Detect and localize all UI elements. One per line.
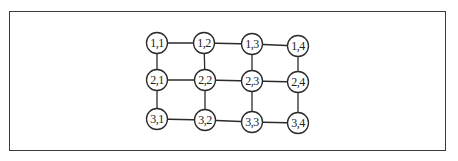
node-label: 3,1 — [145, 111, 169, 127]
node-label: 2,4 — [286, 74, 310, 90]
node-label: 3,2 — [193, 112, 217, 128]
node-label: 2,1 — [145, 72, 169, 88]
node-label: 3,4 — [286, 115, 310, 131]
node-label: 1,2 — [192, 35, 216, 51]
nodes-group — [147, 33, 309, 134]
node-label: 3,3 — [240, 114, 264, 130]
grid-graph — [0, 0, 458, 161]
node-label: 1,4 — [286, 38, 310, 54]
node-label: 1,3 — [240, 36, 264, 52]
node-label: 2,2 — [193, 72, 217, 88]
node-label: 2,3 — [240, 73, 264, 89]
node-label: 1,1 — [145, 35, 169, 51]
edges-group — [157, 43, 298, 123]
